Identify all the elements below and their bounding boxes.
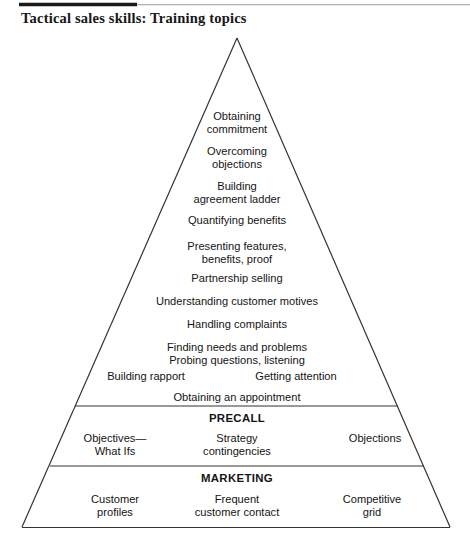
row-line: Getting attention xyxy=(255,370,336,383)
column-line: Competitive xyxy=(343,493,402,506)
band-heading-precall: PRECALL xyxy=(209,412,265,425)
column-line: What Ifs xyxy=(84,445,147,458)
pyramid-row-obtaining-commitment: Obtaining commitment xyxy=(207,110,267,136)
precall-column-strategy: Strategy contingencies xyxy=(203,432,271,458)
row-line: Presenting features, xyxy=(187,240,286,253)
pyramid-row-understanding-customer-motives: Understanding customer motives xyxy=(156,295,318,308)
pyramid-row-finding-needs: Finding needs and problems Probing quest… xyxy=(167,341,307,367)
row-line: Handling complaints xyxy=(187,318,287,331)
pyramid-row-obtaining-appointment: Obtaining an appointment xyxy=(173,391,300,404)
pyramid-text-layer: Obtaining commitment Overcoming objectio… xyxy=(0,0,470,551)
pyramid-row-presenting-features: Presenting features, benefits, proof xyxy=(187,240,286,266)
column-line: Objections xyxy=(349,432,401,445)
column-line: grid xyxy=(343,506,402,519)
row-line: agreement ladder xyxy=(194,193,281,206)
row-line: Overcoming xyxy=(207,145,267,158)
row-line: Quantifying benefits xyxy=(188,214,286,227)
row-line: Obtaining xyxy=(207,110,267,123)
row-line: commitment xyxy=(207,123,267,136)
pyramid-row-partnership-selling: Partnership selling xyxy=(191,272,282,285)
pyramid-row-quantifying-benefits: Quantifying benefits xyxy=(188,214,286,227)
band-heading-marketing: MARKETING xyxy=(201,472,273,485)
pyramid-row-handling-complaints: Handling complaints xyxy=(187,318,287,331)
pyramid-row-overcoming-objections: Overcoming objections xyxy=(207,145,267,171)
column-line: customer contact xyxy=(195,506,279,519)
column-line: profiles xyxy=(91,506,139,519)
marketing-column-customer-profiles: Customer profiles xyxy=(91,493,139,519)
pyramid-row-building-agreement-ladder: Building agreement ladder xyxy=(194,180,281,206)
marketing-column-competitive-grid: Competitive grid xyxy=(343,493,402,519)
column-line: Frequent xyxy=(195,493,279,506)
pyramid-row-getting-attention: Getting attention xyxy=(255,370,336,383)
row-line: benefits, proof xyxy=(187,253,286,266)
row-line: Probing questions, listening xyxy=(167,354,307,367)
pyramid-row-building-rapport: Building rapport xyxy=(107,370,185,383)
marketing-column-frequent-contact: Frequent customer contact xyxy=(195,493,279,519)
column-line: Customer xyxy=(91,493,139,506)
row-line: Understanding customer motives xyxy=(156,295,318,308)
column-line: Strategy xyxy=(203,432,271,445)
precall-column-objectives: Objectives— What Ifs xyxy=(84,432,147,458)
row-line: Building rapport xyxy=(107,370,185,383)
row-line: Obtaining an appointment xyxy=(173,391,300,404)
row-line: objections xyxy=(207,158,267,171)
row-line: Finding needs and problems xyxy=(167,341,307,354)
column-line: Objectives— xyxy=(84,432,147,445)
row-line: Building xyxy=(194,180,281,193)
row-line: Partnership selling xyxy=(191,272,282,285)
column-line: contingencies xyxy=(203,445,271,458)
precall-column-objections: Objections xyxy=(349,432,401,445)
